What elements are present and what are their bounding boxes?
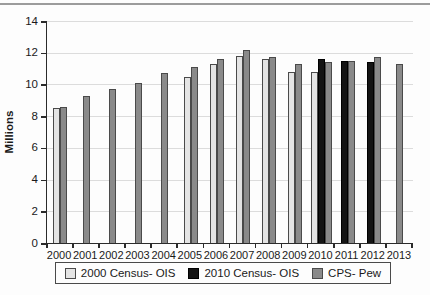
x-axis-label: 2002 <box>98 249 124 261</box>
y-tick <box>41 180 46 182</box>
legend-box: 2000 Census- OIS2010 Census- OISCPS- Pew <box>55 262 391 284</box>
bars-container <box>47 21 413 243</box>
x-tick <box>385 244 387 248</box>
bar-2000-cps-pew <box>60 107 67 243</box>
bar-2009-cps-pew <box>295 64 302 243</box>
y-axis-label: 2 <box>0 205 38 218</box>
x-tick <box>333 244 335 248</box>
bar-group-2004 <box>152 21 178 243</box>
bar-2009-2000-census-ois <box>288 72 295 243</box>
bar-2006-cps-pew <box>217 59 224 243</box>
x-axis-label: 2008 <box>255 249 281 261</box>
x-tick <box>229 244 231 248</box>
x-tick <box>72 244 74 248</box>
x-axis-label: 2007 <box>229 249 255 261</box>
x-tick <box>176 244 178 248</box>
y-axis-title: Millions <box>3 94 15 170</box>
x-axis-label: 2004 <box>151 249 177 261</box>
plot-area <box>46 21 413 244</box>
bar-2012-2010-census-ois <box>367 62 374 243</box>
bar-2007-cps-pew <box>243 50 250 243</box>
x-axis-label: 2012 <box>360 249 386 261</box>
x-axis-label: 2001 <box>72 249 98 261</box>
y-tick <box>41 148 46 150</box>
y-axis-label: 4 <box>0 173 38 186</box>
x-axis-label: 2011 <box>334 249 360 261</box>
bar-group-2008 <box>256 21 282 243</box>
x-tick <box>150 244 152 248</box>
y-tick <box>41 116 46 118</box>
bar-2010-2010-census-ois <box>318 59 325 243</box>
legend-label: 2010 Census- OIS <box>204 267 299 279</box>
y-axis-label: 14 <box>0 15 38 28</box>
bar-2010-2000-census-ois <box>311 72 318 243</box>
y-tick <box>41 53 46 55</box>
bar-group-2006 <box>204 21 230 243</box>
y-axis-label: 10 <box>0 78 38 91</box>
legend-swatch <box>188 268 199 279</box>
y-axis-label: 0 <box>0 237 38 250</box>
x-tick <box>359 244 361 248</box>
legend-label: 2000 Census- OIS <box>81 267 176 279</box>
bar-2008-2000-census-ois <box>262 59 269 243</box>
y-axis-label: 8 <box>0 110 38 123</box>
bar-2013-cps-pew <box>396 64 403 243</box>
bar-2010-cps-pew <box>325 62 332 243</box>
bar-group-2012 <box>361 21 387 243</box>
legend-swatch <box>65 268 76 279</box>
x-axis-label: 2003 <box>124 249 150 261</box>
figure: Millions 2000200120022003200420052006200… <box>0 0 430 295</box>
y-tick <box>41 21 46 23</box>
bar-group-2002 <box>99 21 125 243</box>
bar-group-2013 <box>387 21 413 243</box>
bar-2007-2000-census-ois <box>236 56 243 243</box>
bar-2002-cps-pew <box>109 89 116 243</box>
x-axis-ticks <box>46 244 413 248</box>
bar-group-2009 <box>282 21 308 243</box>
x-axis-label: 2010 <box>307 249 333 261</box>
bar-group-2011 <box>335 21 361 243</box>
x-axis-labels: 2000200120022003200420052006200720082009… <box>46 249 412 261</box>
x-axis-label: 2006 <box>203 249 229 261</box>
bar-2005-cps-pew <box>191 67 198 243</box>
bar-2000-2000-census-ois <box>53 108 60 243</box>
y-axis-label: 12 <box>0 46 38 59</box>
legend-swatch <box>312 268 323 279</box>
bar-2011-cps-pew <box>348 61 355 243</box>
x-tick <box>307 244 309 248</box>
bar-2012-cps-pew <box>374 57 381 243</box>
bar-2003-cps-pew <box>135 83 142 243</box>
legend: 2000 Census- OIS2010 Census- OISCPS- Pew <box>0 262 430 284</box>
bar-2005-2000-census-ois <box>184 77 191 244</box>
x-axis-label: 2013 <box>386 249 412 261</box>
bar-group-2000 <box>47 21 73 243</box>
x-axis-label: 2005 <box>177 249 203 261</box>
bar-group-2001 <box>73 21 99 243</box>
x-tick <box>46 244 48 248</box>
bar-group-2005 <box>178 21 204 243</box>
top-rule <box>0 3 430 5</box>
x-tick <box>411 244 413 248</box>
y-axis-label: 6 <box>0 141 38 154</box>
legend-item: 2010 Census- OIS <box>188 267 299 279</box>
x-tick <box>281 244 283 248</box>
x-tick <box>203 244 205 248</box>
x-tick <box>124 244 126 248</box>
bar-2004-cps-pew <box>161 73 168 243</box>
bar-2001-cps-pew <box>83 96 90 243</box>
y-tick <box>41 243 46 245</box>
x-axis-label: 2009 <box>281 249 307 261</box>
x-axis-label: 2000 <box>46 249 72 261</box>
y-tick <box>41 211 46 213</box>
legend-item: 2000 Census- OIS <box>65 267 176 279</box>
bar-2008-cps-pew <box>269 57 276 243</box>
x-tick <box>255 244 257 248</box>
y-tick <box>41 84 46 86</box>
legend-item: CPS- Pew <box>312 267 381 279</box>
bar-group-2003 <box>125 21 151 243</box>
bar-group-2007 <box>230 21 256 243</box>
legend-label: CPS- Pew <box>328 267 381 279</box>
x-tick <box>98 244 100 248</box>
bar-2011-2010-census-ois <box>341 61 348 243</box>
bar-2006-2000-census-ois <box>210 64 217 243</box>
